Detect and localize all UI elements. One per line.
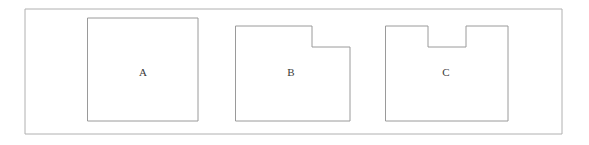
figure-canvas: A B C — [0, 0, 589, 145]
shape-b-label: B — [287, 66, 295, 78]
geometry-figure: A B C — [0, 0, 589, 145]
shape-c-label: C — [442, 66, 450, 78]
shape-a-label: A — [139, 66, 147, 78]
